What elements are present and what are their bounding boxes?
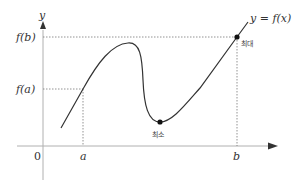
y-tick-fb: f(b): [15, 31, 36, 44]
x-tick-b: b: [233, 150, 240, 163]
y-axis-label: y: [38, 9, 46, 22]
x-tick-a: a: [80, 150, 87, 163]
maximum-label: 최대: [241, 39, 253, 48]
minimum-point: [157, 119, 162, 124]
function-curve: [61, 22, 248, 128]
maximum-point: [234, 34, 239, 39]
origin-label: 0: [34, 150, 41, 163]
y-tick-fa: f(a): [15, 83, 35, 96]
x-axis-arrow-icon: [268, 143, 278, 150]
function-graph: y 0 a b f(b) f(a) y = f(x) 최대 최소: [0, 0, 299, 184]
y-axis-arrow-icon: [40, 21, 46, 29]
curve-label: y = f(x): [249, 12, 291, 25]
minimum-label: 최소: [152, 130, 165, 139]
